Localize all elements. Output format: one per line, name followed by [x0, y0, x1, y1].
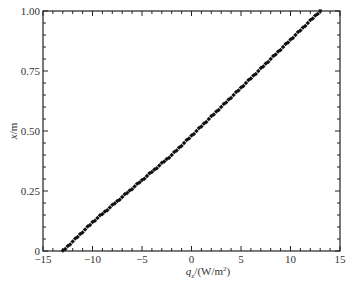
y-axis-label: x/m — [7, 122, 19, 140]
y-tick-label: 0.75 — [21, 65, 41, 77]
x-tick-label: 5 — [238, 253, 244, 265]
y-tick-label: 0.25 — [21, 185, 41, 197]
x-tick-label: −10 — [84, 253, 102, 265]
y-tick-label: 1.00 — [21, 5, 41, 17]
x-tick-label: 10 — [285, 253, 297, 265]
data-series — [61, 9, 322, 252]
x-tick-label: 0 — [189, 253, 195, 265]
plot-frame — [43, 11, 340, 251]
scatter-chart: −15−10−505101500.250.500.751.00qz/(W/m2)… — [0, 0, 349, 291]
x-axis-label: qz/(W/m2) — [186, 265, 231, 280]
figure-caption — [0, 284, 349, 291]
y-tick-label: 0 — [35, 245, 41, 257]
x-tick-label: −5 — [136, 253, 148, 265]
y-tick-label: 0.50 — [21, 125, 41, 137]
x-tick-label: 15 — [335, 253, 347, 265]
